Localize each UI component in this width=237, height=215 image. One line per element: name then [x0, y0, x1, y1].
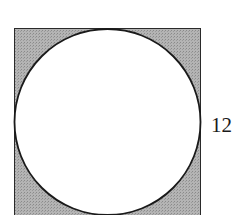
- side-length-label: 12: [211, 113, 232, 138]
- square-circle-figure: [0, 0, 237, 215]
- inscribed-circle: [15, 29, 201, 215]
